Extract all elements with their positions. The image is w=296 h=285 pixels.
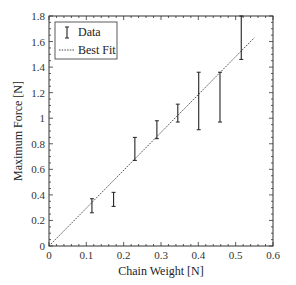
y-tick-label: 0.2 — [31, 214, 45, 226]
legend-data-label: Data — [78, 25, 101, 39]
x-tick-label: 0.1 — [79, 249, 93, 261]
y-tick-label: 0 — [40, 240, 46, 252]
x-tick-label: 0.2 — [117, 249, 131, 261]
y-axis-label: Maximum Force [N] — [11, 81, 25, 181]
y-tick-label: 0.6 — [31, 163, 45, 175]
x-tick-label: 0.4 — [191, 249, 205, 261]
x-tick-label: 0.6 — [266, 249, 280, 261]
legend-fit-label: Best Fit — [78, 43, 116, 57]
y-tick-label: 0.4 — [31, 189, 45, 201]
y-tick-label: 1.2 — [31, 87, 45, 99]
y-tick-label: 0.8 — [31, 138, 45, 150]
best-fit-line — [49, 38, 254, 246]
y-tick-label: 1.6 — [31, 36, 45, 48]
y-tick-label: 1.8 — [31, 10, 45, 22]
x-tick-label: 0.5 — [229, 249, 243, 261]
chart: 00.10.20.30.40.50.600.20.40.60.811.21.41… — [0, 0, 296, 285]
x-axis-label: Chain Weight [N] — [118, 264, 203, 278]
y-tick-label: 1 — [40, 112, 46, 124]
x-tick-label: 0.3 — [154, 249, 168, 261]
x-tick-label: 0 — [46, 249, 52, 261]
y-tick-label: 1.4 — [31, 61, 45, 73]
